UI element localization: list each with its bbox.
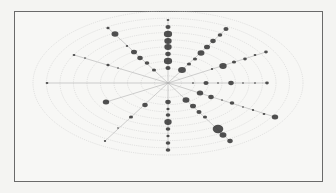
data-bubble [164,119,171,125]
data-bubble [221,99,223,100]
data-bubble [272,114,278,119]
data-bubble [213,125,224,133]
data-bubble [106,27,109,30]
data-bubble [129,115,133,118]
data-bubble [117,127,119,128]
data-bubble [103,99,109,104]
data-bubble [166,135,169,138]
data-bubble [137,56,143,60]
data-bubble [131,50,137,55]
data-bubble [164,44,171,50]
data-bubble [117,67,119,68]
data-bubble [242,106,244,108]
data-bubble [164,31,172,37]
data-bubble [211,68,213,70]
data-bubble [208,95,214,99]
spoke-line [106,83,168,102]
data-bubble [230,101,235,105]
polar-bubble-chart [0,0,336,193]
data-bubble [142,103,148,107]
data-bubble [252,109,254,111]
data-bubbles [46,19,279,152]
spoke-line [105,83,168,141]
data-bubble [145,61,150,65]
data-bubble [73,54,76,56]
data-bubble [164,38,171,44]
data-bubble [126,45,128,47]
data-bubble [228,81,234,85]
data-bubble [106,64,109,67]
data-bubble [203,115,207,118]
data-bubble [198,50,205,55]
data-bubble [242,82,244,83]
data-bubble [218,33,223,37]
data-bubble [104,140,106,142]
data-bubble [165,100,171,104]
data-bubble [227,139,233,143]
data-bubble [166,113,171,117]
data-bubble [192,82,194,84]
data-bubble [112,31,119,36]
data-bubble [265,82,269,85]
data-bubble [232,60,236,63]
data-bubble [210,39,216,43]
data-bubble [166,148,171,152]
data-bubble [165,66,170,70]
data-bubble [243,58,247,61]
data-bubble [263,113,266,115]
data-bubble [166,127,171,131]
data-bubble [187,62,191,65]
data-bubble [217,82,219,83]
data-bubble [254,54,257,56]
data-bubble [152,68,156,71]
data-bubble [197,90,203,95]
data-bubble [223,27,228,31]
data-bubble [204,45,210,50]
data-bubble [220,132,227,137]
data-bubble [203,81,208,85]
spoke-line [108,28,168,83]
data-bubble [167,19,170,21]
data-bubble [166,108,169,111]
data-bubble [84,57,86,59]
data-bubble [264,51,268,54]
data-bubble [46,82,49,84]
data-bubble [166,141,171,145]
data-bubble [165,52,171,56]
data-bubble [164,58,172,64]
data-bubble [254,82,256,84]
spoke-line [168,29,226,83]
data-bubble [219,63,226,69]
data-bubble [196,110,201,114]
radial-spokes [47,20,275,150]
data-bubble [178,67,186,73]
data-bubble [183,97,190,102]
data-bubble [193,57,197,60]
data-bubble [165,25,170,29]
data-bubble [190,104,196,109]
